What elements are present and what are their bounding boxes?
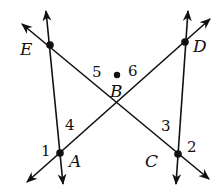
geometry-diagram: EDBAC123456 (0, 0, 220, 194)
point-label-a: A (67, 151, 81, 171)
angle-label-5: 5 (92, 63, 102, 81)
point-label-e: E (19, 39, 33, 59)
point-c (174, 150, 182, 158)
point-label-b: B (109, 81, 123, 101)
point-a (56, 149, 64, 157)
angle-label-2: 2 (187, 138, 197, 156)
angle-label-3: 3 (161, 117, 171, 135)
angle-label-1: 1 (41, 142, 51, 160)
angle-label-4: 4 (65, 116, 75, 134)
point-label-d: D (192, 36, 207, 56)
point-b (114, 72, 120, 78)
angle-label-6: 6 (128, 62, 138, 80)
line-DC (176, 11, 188, 184)
point-label-c: C (145, 151, 158, 171)
point-e (46, 41, 54, 49)
point-d (181, 38, 189, 46)
